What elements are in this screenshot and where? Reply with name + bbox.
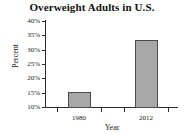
y-tick-mark [42,78,46,79]
x-tick-mark [57,108,58,112]
x-tick-mark [101,108,102,112]
y-tick-mark [42,21,46,22]
y-tick-label: 30% [27,47,40,54]
y-tick-mark [42,64,46,65]
y-axis-title: Percent [12,28,20,84]
x-tick-mark [124,108,125,112]
y-tick-mark [42,107,46,108]
y-tick-label: 40% [27,18,40,25]
y-tick-label: 15% [27,90,40,97]
x-tick-label-1980: 1980 [59,114,99,122]
y-tick-label: 25% [27,61,40,68]
y-tick-mark [42,93,46,94]
y-tick-label: 35% [27,32,40,39]
y-tick-label: 10% [27,104,40,111]
x-tick-mark [168,108,169,112]
bar-chart-figure: Overweight Adults in U.S. Percent 40% 35… [0,0,184,135]
x-axis-line [45,107,178,108]
chart-title: Overweight Adults in U.S. [0,1,184,13]
y-tick-mark [42,50,46,51]
bar-2012 [135,40,158,108]
y-tick-label: 20% [27,75,40,82]
x-axis-title: Year [46,124,178,132]
bar-1980 [68,92,91,108]
y-tick-mark [42,35,46,36]
x-tick-label-2012: 2012 [126,114,166,122]
